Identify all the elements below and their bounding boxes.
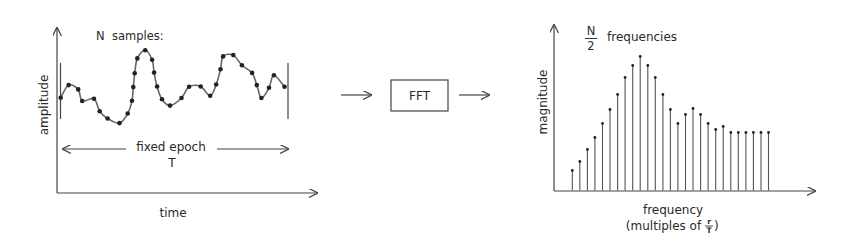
sample-point — [132, 71, 137, 76]
x-axis-label: time — [159, 206, 186, 220]
stem-tip — [616, 93, 619, 96]
stem-tip — [752, 131, 755, 134]
stem-tip — [714, 128, 717, 131]
sample-point — [131, 85, 136, 90]
x-axis-sublabel-suffix: ) — [714, 219, 719, 233]
stem-tip — [631, 64, 634, 67]
stem-tip — [662, 93, 665, 96]
count-numerator: N — [587, 24, 596, 38]
stem-tip — [586, 148, 589, 151]
fft-process: FFT — [341, 80, 489, 111]
stem-tip — [624, 76, 627, 79]
time-domain-panel: amplitude time N samples: fixed epoch T — [37, 28, 317, 220]
sample-point — [259, 96, 264, 101]
sample-point — [179, 96, 184, 101]
x-axis-label: frequency — [643, 203, 703, 217]
stem-tip — [684, 113, 687, 116]
sample-point — [214, 82, 219, 87]
stem-tip — [729, 131, 732, 134]
sample-point — [168, 103, 173, 108]
count-denominator: 2 — [587, 39, 594, 53]
sample-point — [231, 53, 236, 58]
x-axis-sublabel-num: r — [707, 217, 711, 226]
stem-tip — [677, 122, 680, 125]
stem-tip — [601, 122, 604, 125]
x-axis-sublabel-den: T — [706, 226, 712, 235]
stem-tip — [609, 108, 612, 111]
stem-tip — [594, 136, 597, 139]
sample-point — [66, 83, 71, 88]
stem-tip — [654, 76, 657, 79]
fft-diagram: amplitude time N samples: fixed epoch T … — [0, 0, 851, 245]
sample-point — [97, 109, 102, 114]
sample-point — [143, 48, 148, 53]
samples-label: N samples: — [96, 29, 164, 43]
fft-box-label: FFT — [409, 89, 431, 103]
sample-point — [240, 63, 245, 68]
sample-point — [208, 93, 213, 98]
sample-point — [267, 86, 272, 91]
stem-tip — [571, 169, 574, 172]
sample-points — [58, 48, 286, 125]
sample-point — [130, 98, 135, 103]
sample-point — [198, 84, 203, 89]
sample-point — [58, 95, 63, 100]
epoch-label: fixed epoch — [136, 140, 206, 154]
stem-tip — [692, 107, 695, 110]
magnitude-stems — [571, 55, 770, 190]
sample-point — [218, 67, 223, 72]
sample-point — [155, 84, 160, 89]
stem-tip — [760, 131, 763, 134]
sample-point — [117, 121, 122, 126]
stem-tip — [722, 125, 725, 128]
sample-point — [125, 111, 130, 116]
frequency-domain-panel: magnitude N 2 frequencies frequency (mul… — [536, 24, 815, 235]
stem-tip — [745, 131, 748, 134]
sample-point — [272, 73, 277, 78]
stem-tip — [669, 108, 672, 111]
stem-tip — [767, 131, 770, 134]
count-label: frequencies — [607, 30, 677, 44]
sample-point — [160, 97, 165, 102]
sample-point — [254, 83, 259, 88]
epoch-symbol: T — [167, 156, 176, 170]
signal-waveform — [61, 50, 285, 123]
sample-point — [135, 56, 140, 61]
sample-point — [105, 116, 110, 121]
y-axis-label: amplitude — [37, 75, 51, 136]
sample-point — [250, 71, 255, 76]
sample-point — [150, 57, 155, 62]
x-axis-sublabel-prefix: (multiples of — [626, 219, 705, 233]
stem-tip — [578, 160, 581, 163]
stem-tip — [639, 55, 642, 58]
sample-point — [76, 87, 81, 92]
stem-tip — [737, 131, 740, 134]
stem-tip — [707, 122, 710, 125]
y-axis-label: magnitude — [536, 70, 550, 135]
sample-point — [221, 54, 226, 59]
sample-point — [152, 70, 157, 75]
sample-point — [80, 99, 85, 104]
stem-tip — [646, 64, 649, 67]
stem-tip — [699, 113, 702, 116]
sample-point — [92, 96, 97, 101]
sample-point — [282, 85, 287, 90]
sample-point — [187, 85, 192, 90]
